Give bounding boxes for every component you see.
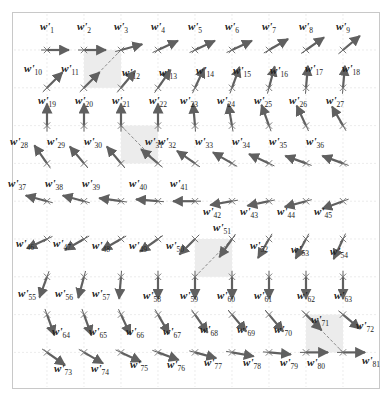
weight-vector-w1: w'1 bbox=[40, 20, 69, 53]
vector-label: w'2 bbox=[77, 20, 91, 35]
vector-label: w'74 bbox=[91, 362, 109, 377]
vector-label: w'12 bbox=[122, 66, 140, 81]
arrow-icon bbox=[195, 41, 215, 50]
arrow-icon bbox=[39, 277, 47, 298]
arrow-icon bbox=[158, 41, 178, 50]
weight-vector-w56: w'56 bbox=[55, 271, 87, 302]
vector-label: w'78 bbox=[243, 356, 261, 371]
vector-label: w'75 bbox=[130, 358, 148, 373]
weight-vector-w68: w'68 bbox=[192, 310, 219, 338]
vector-label: w'35 bbox=[269, 135, 287, 150]
weight-vector-w75: w'75 bbox=[116, 349, 149, 373]
weight-vector-w55: w'55 bbox=[18, 271, 50, 302]
weight-vector-w77: w'77 bbox=[189, 349, 222, 371]
arrow-icon bbox=[322, 201, 343, 209]
vector-label: w'69 bbox=[237, 323, 255, 338]
vector-label: w'42 bbox=[203, 205, 221, 220]
vector-label: w'36 bbox=[306, 135, 324, 150]
vector-label: w'10 bbox=[24, 62, 42, 77]
arrow-icon bbox=[269, 39, 288, 50]
vector-label: w'81 bbox=[362, 354, 380, 369]
vector-label: w'34 bbox=[232, 135, 250, 150]
weight-vector-w50: w'50 bbox=[166, 235, 199, 255]
vector-label: w'77 bbox=[204, 356, 222, 371]
arrow-icon bbox=[99, 198, 121, 201]
weight-vector-w53: w'53 bbox=[291, 234, 309, 259]
vector-label: w'53 bbox=[291, 243, 309, 258]
weight-vector-w74: w'74 bbox=[79, 349, 109, 377]
vector-label: w'28 bbox=[10, 135, 28, 150]
vector-label: w'14 bbox=[196, 64, 214, 79]
vector-label: w'13 bbox=[159, 66, 177, 81]
weight-vector-w6: w'6 bbox=[225, 20, 252, 53]
weight-vector-w27: w'27 bbox=[326, 94, 346, 131]
vector-label: w'44 bbox=[277, 205, 295, 220]
arrow-icon bbox=[332, 107, 343, 126]
weight-vector-w59: w'59 bbox=[180, 271, 198, 304]
vector-label: w'49 bbox=[129, 239, 147, 254]
vector-label: w'33 bbox=[195, 135, 213, 150]
vector-label: w'4 bbox=[151, 20, 165, 35]
weight-vector-w81: w'81 bbox=[337, 349, 380, 369]
weight-vector-w73: w'73 bbox=[42, 349, 72, 377]
weight-vector-w3: w'3 bbox=[114, 20, 142, 53]
arrow-icon bbox=[34, 145, 47, 163]
arrow-icon bbox=[177, 151, 195, 164]
arrow-icon bbox=[210, 201, 232, 205]
vector-label: w'67 bbox=[163, 325, 181, 340]
arrow-icon bbox=[213, 152, 232, 163]
vector-label: w'62 bbox=[297, 289, 315, 304]
vector-label: w'80 bbox=[307, 356, 325, 371]
vector-label: w'79 bbox=[280, 356, 298, 371]
vector-label: w'73 bbox=[54, 362, 72, 377]
vector-label: w'11 bbox=[61, 62, 79, 77]
weight-vector-w64: w'64 bbox=[44, 309, 70, 340]
vector-label: w'41 bbox=[170, 177, 188, 192]
vector-label: w'51 bbox=[213, 221, 231, 236]
vector-label: w'68 bbox=[200, 323, 218, 338]
arrow-icon bbox=[285, 156, 306, 164]
vector-label: w'9 bbox=[336, 20, 350, 35]
weight-vector-w58: w'58 bbox=[143, 271, 161, 304]
vector-label: w'57 bbox=[92, 287, 110, 302]
weight-vector-w80: w'80 bbox=[300, 349, 328, 371]
vector-label: w'37 bbox=[8, 177, 26, 192]
weight-vector-w65: w'65 bbox=[81, 309, 107, 340]
weight-vector-w43: w'43 bbox=[240, 198, 275, 220]
vector-label: w'5 bbox=[188, 20, 202, 35]
weight-vector-w54: w'54 bbox=[330, 234, 348, 260]
vector-label: w'7 bbox=[262, 20, 276, 35]
weight-vectors: w'1w'2w'3w'4w'5w'6w'7w'8w'9w'10w'11w'12w… bbox=[8, 20, 380, 377]
vector-field-plot: w'1w'2w'3w'4w'5w'6w'7w'8w'9w'10w'11w'12w… bbox=[0, 0, 391, 398]
weight-vector-w57: w'57 bbox=[92, 271, 124, 302]
weight-vector-w36: w'36 bbox=[306, 135, 349, 166]
vector-label: w'23 bbox=[180, 94, 198, 109]
vector-label: w'63 bbox=[334, 289, 352, 304]
weight-vector-w76: w'76 bbox=[152, 349, 185, 373]
weight-vector-w5: w'5 bbox=[188, 20, 215, 53]
vector-label: w'55 bbox=[18, 287, 36, 302]
vector-label: w'43 bbox=[240, 205, 258, 220]
vector-label: w'47 bbox=[53, 237, 71, 252]
weight-vector-w7: w'7 bbox=[262, 20, 288, 53]
cross-anchor-icon bbox=[192, 160, 198, 166]
vector-label: w'64 bbox=[52, 325, 70, 340]
vector-label: w'1 bbox=[40, 20, 54, 35]
vector-label: w'30 bbox=[84, 135, 102, 150]
vector-label: w'3 bbox=[114, 20, 128, 35]
arrow-icon bbox=[247, 201, 269, 206]
weight-vector-w17: w'17 bbox=[303, 62, 323, 94]
vector-label: w'70 bbox=[274, 323, 292, 338]
weight-vector-w66: w'66 bbox=[118, 309, 144, 339]
cross-anchor-icon bbox=[192, 311, 198, 317]
arrow-icon bbox=[249, 154, 269, 163]
arrow-icon bbox=[232, 41, 252, 50]
weight-vector-w79: w'79 bbox=[263, 349, 298, 371]
weight-vector-w72: w'72 bbox=[338, 311, 374, 334]
arrow-icon bbox=[297, 106, 306, 126]
weight-vector-w42: w'42 bbox=[203, 198, 238, 220]
vector-label: w'29 bbox=[47, 135, 65, 150]
weight-vector-w67: w'67 bbox=[155, 309, 181, 339]
vector-label: w'8 bbox=[299, 20, 313, 35]
weight-vector-w9: w'9 bbox=[336, 20, 360, 54]
